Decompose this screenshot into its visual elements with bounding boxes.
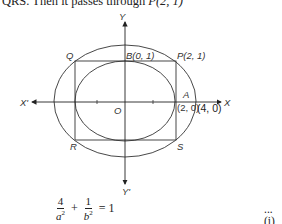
origin-label: O <box>114 105 122 116</box>
point-a-label: A <box>182 89 189 100</box>
equation-rhs: = 1 <box>99 201 115 216</box>
fraction-1-over-b2: 1 b2 <box>84 196 93 222</box>
x-prime-label: X' <box>19 97 29 108</box>
point-a-coord: (2, 0) <box>177 102 199 113</box>
point-b-label: B(0, 1) <box>126 50 155 61</box>
fraction-numerator: 1 <box>85 196 93 209</box>
plus-sign: + <box>71 201 78 216</box>
equation: 4 a2 + 1 b2 = 1 <box>54 196 119 222</box>
point-q-label: Q <box>66 50 74 61</box>
y-axis-label: Y <box>119 11 126 22</box>
exponent: 2 <box>89 209 93 217</box>
y-prime-label: Y' <box>122 186 131 197</box>
outer-vertex-label: (4, 0) <box>197 102 222 114</box>
x-axis-label: X <box>223 97 231 108</box>
point-r-label: R <box>70 141 77 152</box>
exponent: 2 <box>62 209 66 217</box>
fraction-4-over-a2: 4 a2 <box>56 196 65 222</box>
point-p-label: P(2, 1) <box>177 50 206 61</box>
equation-tag: ...(i) <box>264 203 282 224</box>
fraction-denominator: a2 <box>56 209 65 222</box>
ellipse-figure: Y Y' X X' O Q B(0, 1) P(2, 1) R S A (2, … <box>0 0 282 224</box>
fraction-denominator: b2 <box>84 209 93 222</box>
point-s-label: S <box>177 141 184 152</box>
fraction-numerator: 4 <box>57 196 65 209</box>
